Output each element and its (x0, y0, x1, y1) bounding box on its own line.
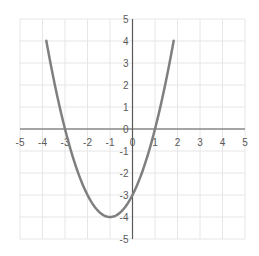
y-tick-label: -4 (120, 212, 129, 223)
parabola-chart: -5-4-3-2-1012345 543210-1-2-3-4-5 (0, 0, 259, 256)
x-tick-label: 3 (197, 137, 203, 148)
axes (20, 19, 245, 239)
x-tick-label: 5 (242, 137, 248, 148)
x-tick-label: -2 (83, 137, 92, 148)
y-tick-label: 2 (123, 80, 129, 91)
y-tick-label: 1 (123, 102, 129, 113)
y-tick-label: -1 (120, 146, 129, 157)
x-tick-label: -4 (38, 137, 47, 148)
x-tick-label: -5 (16, 137, 25, 148)
y-tick-label: 5 (123, 14, 129, 25)
y-tick-label: 0 (123, 124, 129, 135)
y-tick-label: -3 (120, 190, 129, 201)
x-tick-labels: -5-4-3-2-1012345 (16, 137, 249, 148)
y-tick-label: -5 (120, 234, 129, 245)
x-tick-label: 0 (130, 137, 136, 148)
x-tick-label: 4 (220, 137, 226, 148)
y-tick-label: 3 (123, 58, 129, 69)
y-tick-label: 4 (123, 36, 129, 47)
x-tick-label: -1 (106, 137, 115, 148)
y-tick-label: -2 (120, 168, 129, 179)
x-tick-label: 2 (175, 137, 181, 148)
